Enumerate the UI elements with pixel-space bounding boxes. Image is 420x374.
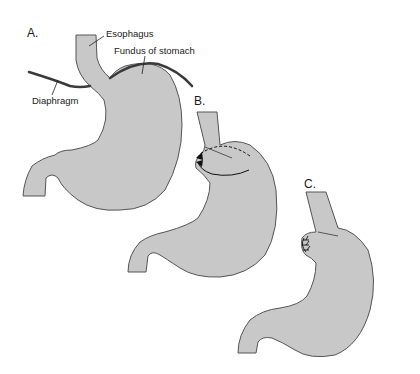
fundus-label: Fundus of stomach bbox=[114, 46, 195, 56]
diaphragm-label: Diaphragm bbox=[32, 96, 78, 106]
panel-c-letter: C. bbox=[304, 178, 316, 190]
panel-a-stomach bbox=[23, 35, 182, 210]
diagram-drawing bbox=[0, 0, 420, 374]
panel-b-letter: B. bbox=[194, 95, 205, 107]
diaphragm-leader bbox=[52, 80, 58, 95]
fundoplication-diagram: A. Esophagus Fundus of stomach Diaphragm… bbox=[0, 0, 420, 374]
panel-a-letter: A. bbox=[27, 27, 38, 39]
esophagus-label: Esophagus bbox=[106, 29, 154, 39]
